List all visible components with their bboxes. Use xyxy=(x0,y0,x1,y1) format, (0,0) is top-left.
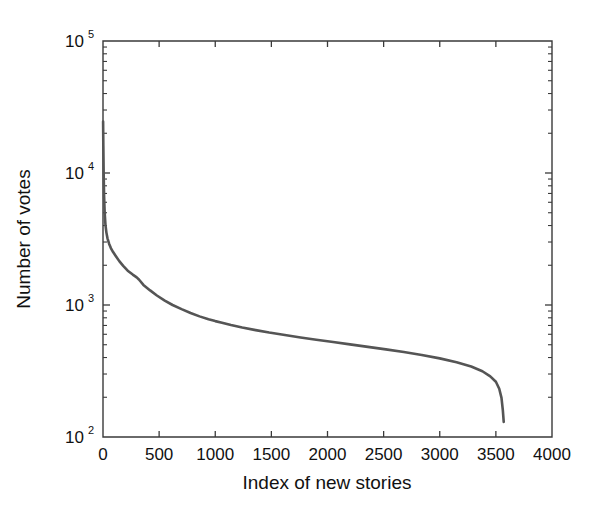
y-axis-title: Number of votes xyxy=(13,169,34,308)
chart-figure: 05001000150020002500300035004000 1021031… xyxy=(0,0,613,513)
x-axis-title: Index of new stories xyxy=(243,472,412,493)
x-axis-tick-labels: 05001000150020002500300035004000 xyxy=(98,445,571,464)
x-tick-label: 1500 xyxy=(252,445,290,464)
x-tick-label: 500 xyxy=(145,445,173,464)
x-tick-label: 0 xyxy=(98,445,107,464)
y-tick-label-exponent: 5 xyxy=(88,28,94,40)
x-tick-label: 3000 xyxy=(421,445,459,464)
y-tick-label-mantissa: 10 xyxy=(65,32,84,51)
y-tick-label-mantissa: 10 xyxy=(65,164,84,183)
y-tick-label-exponent: 3 xyxy=(88,292,94,304)
figure-background xyxy=(0,0,613,513)
y-tick-label-mantissa: 10 xyxy=(65,428,84,447)
x-tick-label: 1000 xyxy=(196,445,234,464)
x-tick-label: 3500 xyxy=(477,445,515,464)
x-tick-label: 2500 xyxy=(365,445,403,464)
y-tick-label-exponent: 2 xyxy=(88,424,94,436)
x-tick-label: 4000 xyxy=(533,445,571,464)
y-tick-label-exponent: 4 xyxy=(88,160,94,172)
y-tick-label-mantissa: 10 xyxy=(65,296,84,315)
x-tick-label: 2000 xyxy=(309,445,347,464)
